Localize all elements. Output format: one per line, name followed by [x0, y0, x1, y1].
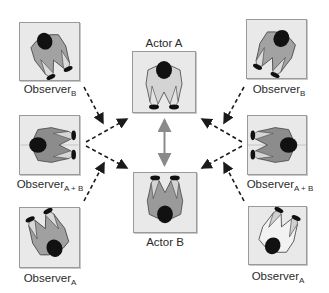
person-top-view-icon — [20, 116, 79, 174]
observer-ab-left-label: ObserverA + B — [17, 178, 84, 193]
observer-ab-left-figure — [19, 115, 80, 175]
dashed-arrow-obs-b-right — [224, 87, 244, 123]
observer-b-right-label: ObserverB — [253, 83, 306, 98]
dashed-arrow-obs-ab-left-to-b — [86, 146, 127, 168]
person-top-view-icon — [134, 173, 196, 232]
dashed-arrow-obs-a-left — [84, 163, 104, 201]
person-top-view-icon — [249, 207, 306, 264]
dashed-arrow-obs-a-right — [224, 163, 244, 201]
observer-a-right-figure — [248, 206, 307, 265]
observer-a-left-figure — [19, 207, 80, 268]
actor-b-figure — [133, 172, 197, 233]
observer-b-left-figure — [19, 22, 80, 81]
dashed-arrow-obs-ab-right-to-b — [202, 146, 242, 168]
person-top-view-icon — [247, 20, 306, 78]
person-top-view-icon — [133, 52, 195, 112]
observer-ab-right-figure — [247, 115, 307, 175]
actor-a-figure — [132, 51, 196, 113]
dashed-arrow-obs-ab-left-to-a — [86, 119, 127, 142]
dashed-arrow-obs-ab-right-to-a — [202, 119, 242, 142]
person-top-view-icon — [20, 208, 79, 267]
person-top-view-icon — [248, 116, 306, 174]
observer-ab-right-label: ObserverA + B — [247, 178, 314, 193]
dashed-arrow-obs-b-left — [84, 87, 103, 123]
actor-a-label: Actor A — [145, 37, 182, 49]
observer-b-left-label: ObserverB — [24, 83, 77, 98]
observer-b-right-figure — [246, 19, 307, 79]
person-top-view-icon — [20, 23, 79, 80]
actor-b-label: Actor B — [146, 236, 184, 248]
observer-a-left-label: ObserverA — [24, 272, 77, 287]
observer-a-right-label: ObserverA — [252, 270, 305, 285]
